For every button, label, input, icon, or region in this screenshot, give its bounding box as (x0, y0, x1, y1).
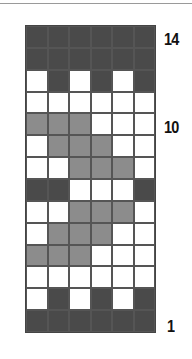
chart-cell-r7-c4 (91, 179, 113, 201)
chart-cell-r3-c4 (91, 266, 113, 288)
chart-cell-r2-c4 (91, 288, 113, 310)
row-label-14: 14 (164, 30, 178, 50)
chart-cell-r11-c1 (26, 92, 48, 114)
chart-cell-r10-c3 (69, 113, 91, 135)
chart-cell-r8-c3 (69, 157, 91, 179)
chart-cell-r8-c5 (112, 157, 134, 179)
chart-cell-r14-c3 (69, 26, 91, 48)
chart-cell-r5-c2 (48, 223, 70, 245)
colorwork-chart-grid (25, 25, 156, 333)
chart-cell-r8-c4 (91, 157, 113, 179)
chart-cell-r2-c1 (26, 288, 48, 310)
chart-cell-r6-c6 (134, 201, 156, 223)
chart-cell-r12-c6 (134, 70, 156, 92)
chart-cell-r11-c2 (48, 92, 70, 114)
chart-cell-r1-c1 (26, 310, 48, 332)
chart-cell-r13-c6 (134, 48, 156, 70)
chart-cell-r9-c5 (112, 135, 134, 157)
chart-cell-r14-c2 (48, 26, 70, 48)
chart-cell-r1-c2 (48, 310, 70, 332)
chart-cell-r11-c4 (91, 92, 113, 114)
chart-cell-r7-c3 (69, 179, 91, 201)
chart-cell-r6-c5 (112, 201, 134, 223)
chart-cell-r11-c6 (134, 92, 156, 114)
chart-cell-r3-c1 (26, 266, 48, 288)
chart-cell-r6-c4 (91, 201, 113, 223)
chart-cell-r1-c6 (134, 310, 156, 332)
chart-cell-r9-c6 (134, 135, 156, 157)
chart-cell-r7-c6 (134, 179, 156, 201)
top-rule (0, 3, 192, 4)
chart-cell-r4-c1 (26, 245, 48, 267)
chart-cell-r6-c3 (69, 201, 91, 223)
chart-cell-r4-c4 (91, 245, 113, 267)
chart-cell-r5-c1 (26, 223, 48, 245)
chart-cell-r12-c4 (91, 70, 113, 92)
chart-cell-r8-c1 (26, 157, 48, 179)
chart-cell-r8-c6 (134, 157, 156, 179)
chart-cell-r4-c6 (134, 245, 156, 267)
chart-cell-r3-c5 (112, 266, 134, 288)
chart-cell-r8-c2 (48, 157, 70, 179)
chart-cell-r3-c2 (48, 266, 70, 288)
chart-cell-r12-c1 (26, 70, 48, 92)
chart-cell-r10-c5 (112, 113, 134, 135)
chart-cell-r7-c1 (26, 179, 48, 201)
chart-cell-r13-c1 (26, 48, 48, 70)
chart-cell-r6-c2 (48, 201, 70, 223)
row-label-1: 1 (167, 317, 174, 337)
chart-cell-r2-c3 (69, 288, 91, 310)
chart-cell-r11-c5 (112, 92, 134, 114)
chart-cell-r10-c1 (26, 113, 48, 135)
chart-cell-r12-c3 (69, 70, 91, 92)
chart-cell-r2-c2 (48, 288, 70, 310)
chart-cell-r7-c2 (48, 179, 70, 201)
chart-cell-r9-c4 (91, 135, 113, 157)
chart-cell-r10-c2 (48, 113, 70, 135)
chart-cell-r13-c2 (48, 48, 70, 70)
chart-cell-r10-c6 (134, 113, 156, 135)
chart-cell-r14-c4 (91, 26, 113, 48)
chart-cell-r7-c5 (112, 179, 134, 201)
chart-cell-r13-c4 (91, 48, 113, 70)
row-label-10: 10 (164, 118, 178, 138)
chart-cell-r14-c1 (26, 26, 48, 48)
chart-cell-r3-c3 (69, 266, 91, 288)
chart-cell-r9-c1 (26, 135, 48, 157)
chart-cell-r14-c6 (134, 26, 156, 48)
chart-cell-r4-c3 (69, 245, 91, 267)
chart-cell-r9-c2 (48, 135, 70, 157)
chart-cell-r9-c3 (69, 135, 91, 157)
chart-cell-r1-c3 (69, 310, 91, 332)
chart-cell-r14-c5 (112, 26, 134, 48)
chart-cell-r12-c5 (112, 70, 134, 92)
chart-cell-r10-c4 (91, 113, 113, 135)
chart-cell-r4-c2 (48, 245, 70, 267)
chart-cell-r5-c5 (112, 223, 134, 245)
chart-cell-r3-c6 (134, 266, 156, 288)
chart-cell-r1-c4 (91, 310, 113, 332)
chart-cell-r6-c1 (26, 201, 48, 223)
chart-cell-r5-c4 (91, 223, 113, 245)
chart-cell-r5-c3 (69, 223, 91, 245)
chart-cell-r2-c6 (134, 288, 156, 310)
chart-cell-r11-c3 (69, 92, 91, 114)
chart-cell-r13-c5 (112, 48, 134, 70)
chart-cell-r5-c6 (134, 223, 156, 245)
chart-cell-r4-c5 (112, 245, 134, 267)
chart-cell-r12-c2 (48, 70, 70, 92)
chart-cell-r13-c3 (69, 48, 91, 70)
chart-cell-r2-c5 (112, 288, 134, 310)
chart-cell-r1-c5 (112, 310, 134, 332)
